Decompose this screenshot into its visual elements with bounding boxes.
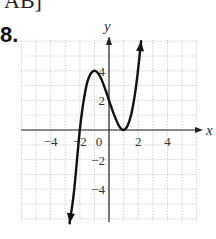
- y-axis-arrow-icon: [106, 36, 112, 45]
- x-tick-label: 2: [135, 134, 142, 149]
- y-axis-label: y: [102, 18, 111, 34]
- x-tick-label: 4: [164, 134, 171, 149]
- y-tick-label: −2: [91, 153, 105, 168]
- function-curve: [70, 41, 142, 223]
- x-tick-label: 0: [96, 134, 103, 149]
- x-axis-arrow-icon: [195, 127, 203, 133]
- axes: [21, 36, 203, 222]
- x-axis-label: x: [205, 122, 213, 138]
- x-tick-label: −4: [44, 134, 58, 149]
- y-tick-label: −4: [91, 182, 105, 197]
- y-tick-label: 2: [99, 93, 106, 108]
- cubic-function-graph: −4−202442−2−4 x y: [0, 0, 216, 239]
